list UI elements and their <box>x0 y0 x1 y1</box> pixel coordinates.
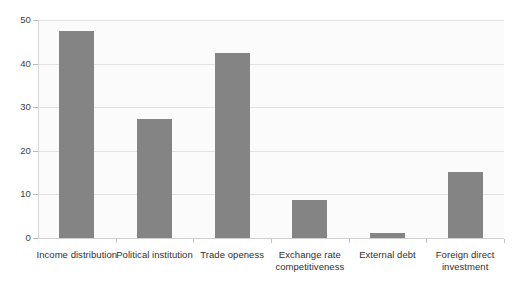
x-tick-mark <box>271 239 272 243</box>
y-tick-label-wrap: 40 <box>0 59 31 69</box>
y-tick-label: 30 <box>5 102 31 112</box>
bar <box>59 31 94 238</box>
bar <box>448 172 483 238</box>
y-tick-mark <box>33 151 38 152</box>
y-tick-label: 10 <box>5 189 31 199</box>
y-tick-label-wrap: 50 <box>0 15 31 25</box>
y-tick-mark <box>33 194 38 195</box>
x-axis-label: Foreign direct investment <box>420 249 510 273</box>
y-tick-label-wrap: 20 <box>0 146 31 156</box>
x-axis-label: Income distribution <box>32 249 122 261</box>
gridline-30 <box>38 107 504 108</box>
y-tick-mark <box>33 107 38 108</box>
x-axis-label: Trade openess <box>187 249 277 261</box>
gridline-40 <box>38 64 504 65</box>
y-tick-label: 50 <box>5 15 31 25</box>
y-tick-label: 20 <box>5 146 31 156</box>
y-tick-label-wrap: 0 <box>0 233 31 243</box>
y-tick-label-wrap: 10 <box>0 189 31 199</box>
x-axis-label: External debt <box>343 249 433 261</box>
y-tick-mark <box>33 64 38 65</box>
x-tick-mark <box>504 239 505 243</box>
bar <box>292 200 327 238</box>
x-axis-label: Exchange rate competitiveness <box>265 249 355 273</box>
x-axis-label: Political institution <box>110 249 200 261</box>
y-tick-label: 40 <box>5 59 31 69</box>
x-tick-mark <box>193 239 194 243</box>
gridline-10 <box>38 194 504 195</box>
y-tick-mark <box>33 20 38 21</box>
x-tick-mark <box>349 239 350 243</box>
gridline-20 <box>38 151 504 152</box>
bar <box>137 119 172 238</box>
y-axis-line <box>38 20 39 239</box>
y-tick-label-wrap: 30 <box>0 102 31 112</box>
bar <box>215 53 250 238</box>
y-tick-label: 0 <box>5 233 31 243</box>
gridline-50 <box>38 20 504 21</box>
plot-area <box>38 20 504 238</box>
bar-chart: 01020304050 Income distributionPolitical… <box>0 0 512 288</box>
x-tick-mark <box>116 239 117 243</box>
x-tick-mark <box>426 239 427 243</box>
